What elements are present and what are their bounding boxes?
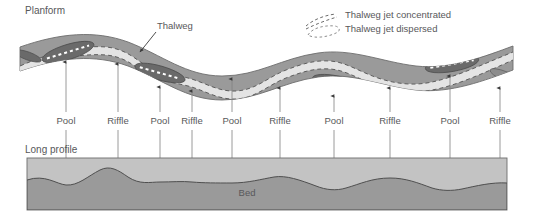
thalweg-jet-concentrated-icon [306, 14, 336, 26]
feature-labels: Pool Riffle Pool Riffle Pool Riffle Pool… [56, 115, 510, 126]
thalweg-leader-line [140, 32, 156, 52]
feature-label-riffle: Riffle [269, 115, 290, 126]
legend-label-dispersed: Thalweg jet dispersed [345, 23, 437, 34]
bed-label: Bed [239, 187, 256, 198]
thalweg-jet-dispersed-icon [308, 26, 339, 37]
feature-label-riffle: Riffle [379, 115, 400, 126]
river-planform-long-profile-diagram: Planform [0, 0, 533, 221]
legend-item-dispersed: Thalweg jet dispersed [308, 23, 437, 37]
pool-ellipse [212, 55, 257, 74]
feature-label-pool: Pool [222, 115, 241, 126]
feature-label-pool: Pool [56, 115, 75, 126]
long-profile-group: Long profile Bed [25, 144, 507, 210]
thalweg-label: Thalweg [157, 20, 193, 31]
feature-label-riffle: Riffle [107, 115, 128, 126]
planform-title: Planform [25, 5, 65, 16]
feature-label-riffle: Riffle [181, 115, 202, 126]
legend-label-concentrated: Thalweg jet concentrated [345, 9, 451, 20]
long-profile-title: Long profile [25, 144, 78, 155]
feature-label-pool: Pool [324, 115, 343, 126]
feature-label-riffle: Riffle [489, 115, 510, 126]
legend: Thalweg jet concentrated Thalweg jet dis… [306, 9, 451, 37]
feature-label-pool: Pool [440, 115, 459, 126]
feature-label-pool: Pool [150, 115, 169, 126]
